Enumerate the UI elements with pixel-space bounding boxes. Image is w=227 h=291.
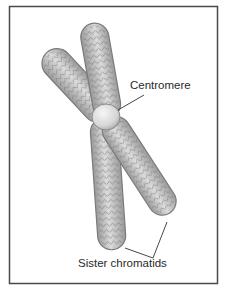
- chromosome-illustration: [0, 0, 227, 291]
- chromosome-figure: Centromere Sister chromatids: [0, 0, 227, 291]
- centromere-label: Centromere: [130, 80, 191, 92]
- centromere: [92, 104, 120, 130]
- sister-chromatids-label: Sister chromatids: [78, 258, 167, 270]
